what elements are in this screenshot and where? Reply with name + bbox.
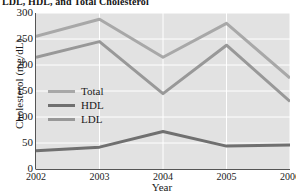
chart-figure: LDL, HDL, and Total Cholesterol Choleste…: [0, 0, 296, 195]
axis-spines: [0, 0, 296, 195]
